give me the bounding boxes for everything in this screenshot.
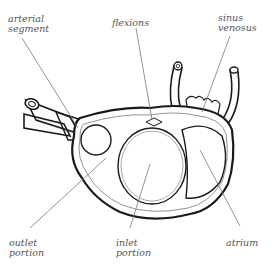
label-sinus-venosus: sinus venosus <box>218 13 257 33</box>
heart-diagram <box>0 0 272 271</box>
label-arterial-segment: arterial segment <box>8 14 49 34</box>
label-atrium: atrium <box>226 238 258 248</box>
leader-flexions <box>136 28 152 120</box>
label-flexions: flexions <box>112 18 149 28</box>
label-outlet-portion: outlet portion <box>9 238 44 258</box>
heart-body <box>72 106 233 219</box>
label-inlet-portion: inlet portion <box>116 238 151 258</box>
